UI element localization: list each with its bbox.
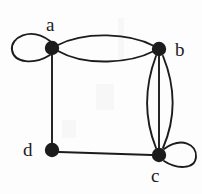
edge-a-a-self-loop <box>12 34 50 61</box>
edge-group <box>12 34 196 167</box>
vertex-a[interactable] <box>45 41 59 55</box>
vertex-label-c: c <box>151 166 159 185</box>
graph-canvas <box>0 0 202 194</box>
edge-a-b-curve-up <box>58 35 154 46</box>
edge-a-b-curve-down <box>58 51 154 62</box>
vertex-d[interactable] <box>45 143 59 157</box>
graph-figure: a b c d <box>0 0 202 194</box>
edge-b-c-curve-left <box>147 56 156 148</box>
edge-c-c-self-loop <box>164 143 196 167</box>
vertex-c[interactable] <box>152 148 166 162</box>
vertex-label-a: a <box>46 15 54 34</box>
edge-b-c-curve-right <box>163 56 173 148</box>
vertex-b[interactable] <box>152 42 166 56</box>
vertex-label-d: d <box>23 140 33 159</box>
edge-d-c-straight <box>59 152 152 155</box>
vertex-label-b: b <box>175 40 185 59</box>
